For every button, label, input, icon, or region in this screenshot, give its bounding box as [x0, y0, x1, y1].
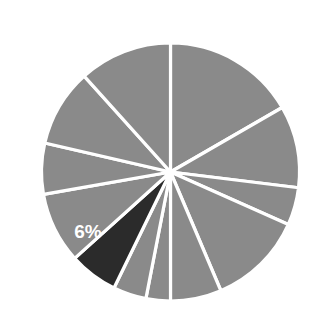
pie-chart-svg: 6% [0, 0, 320, 321]
pie-slices-group [42, 43, 300, 301]
pie-labels-group: 6% [74, 221, 102, 242]
highlight-percentage-label: 6% [74, 221, 102, 242]
pie-chart-container: 6% [0, 0, 320, 321]
